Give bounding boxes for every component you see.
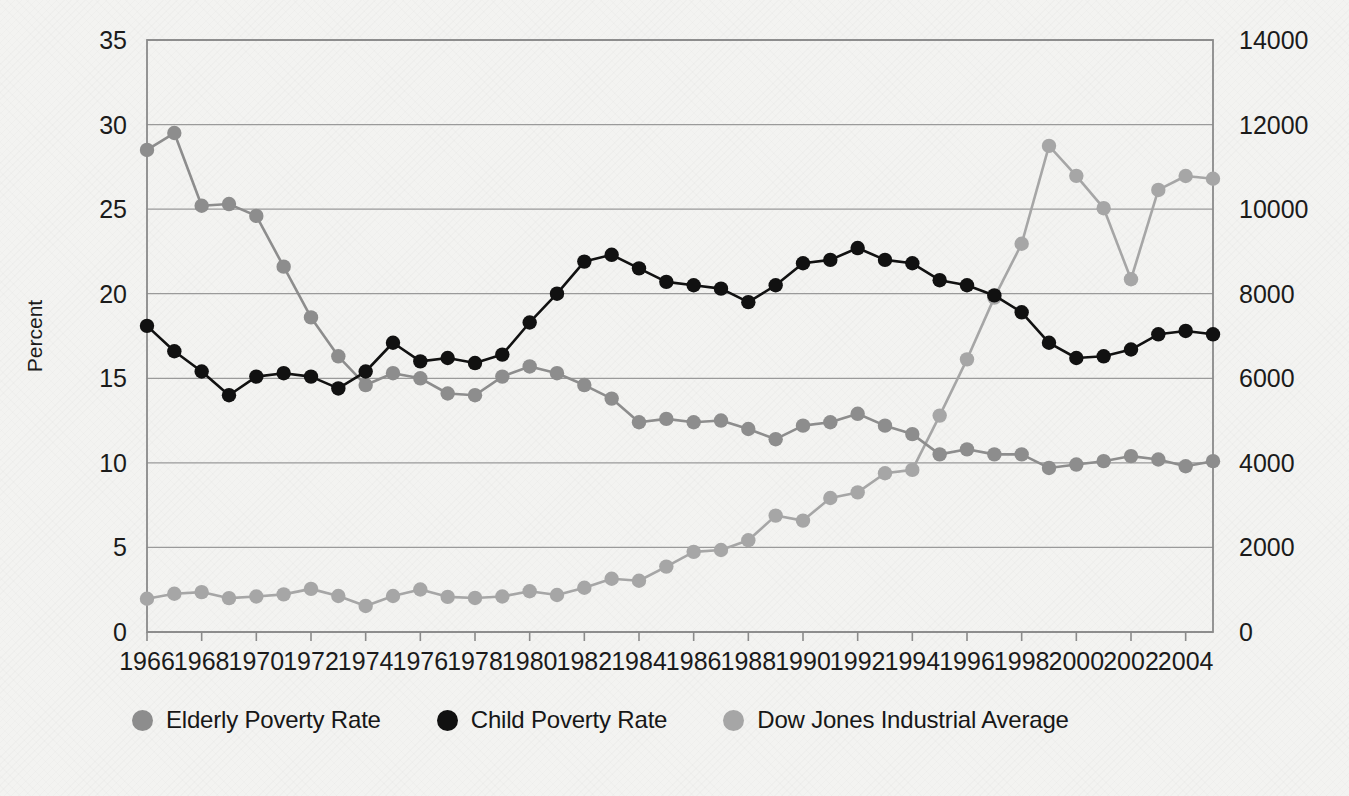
data-point (167, 126, 181, 140)
data-point (878, 466, 892, 480)
data-point (714, 413, 728, 427)
data-point (222, 591, 236, 605)
x-axis-tick-label: 1966 (119, 647, 175, 675)
x-axis-tick-label: 2002 (1103, 647, 1159, 675)
data-point (987, 288, 1001, 302)
legend-label: Elderly Poverty Rate (166, 706, 381, 734)
data-point (1206, 454, 1220, 468)
data-point (440, 386, 454, 400)
y-axis-left-tick-label: 30 (99, 111, 127, 139)
data-point (468, 356, 482, 370)
data-point (1206, 327, 1220, 341)
data-point (905, 427, 919, 441)
data-point (1206, 172, 1220, 186)
legend-entry: Elderly Poverty Rate (132, 706, 381, 734)
data-point (604, 248, 618, 262)
y-axis-left-tick-label: 0 (113, 618, 127, 646)
data-point (796, 513, 810, 527)
data-point (632, 415, 646, 429)
legend-marker-icon (132, 710, 153, 731)
data-point (796, 256, 810, 270)
y-axis-right-tick-label: 4000 (1239, 449, 1295, 477)
y-axis-right-tick-label: 2000 (1239, 533, 1295, 561)
y-axis-left-title: Percent (23, 300, 46, 373)
data-point (1014, 305, 1028, 319)
x-axis-tick-label: 1986 (666, 647, 722, 675)
y-axis-right-tick-label: 10000 (1239, 195, 1309, 223)
data-point (960, 442, 974, 456)
data-point (194, 199, 208, 213)
data-point (741, 295, 755, 309)
data-point (1042, 336, 1056, 350)
data-point (987, 447, 1001, 461)
data-point (358, 378, 372, 392)
legend-marker-icon (723, 710, 744, 731)
y-axis-left-tick-label: 20 (99, 280, 127, 308)
data-point (768, 508, 782, 522)
data-point (960, 352, 974, 366)
data-point (1042, 461, 1056, 475)
data-point (140, 592, 154, 606)
data-point (686, 415, 700, 429)
data-point (550, 366, 564, 380)
data-point (878, 253, 892, 267)
data-point (577, 581, 591, 595)
x-axis-tick-label: 1974 (338, 647, 394, 675)
y-axis-right-tick-label: 6000 (1239, 364, 1295, 392)
data-point (413, 582, 427, 596)
data-point (522, 584, 536, 598)
data-point (960, 278, 974, 292)
data-point (1151, 327, 1165, 341)
data-point (304, 310, 318, 324)
data-point (768, 432, 782, 446)
legend-label: Child Poverty Rate (471, 706, 668, 734)
data-point (358, 364, 372, 378)
data-point (468, 388, 482, 402)
data-point (167, 344, 181, 358)
x-axis-tick-label: 1970 (229, 647, 285, 675)
data-point (1042, 139, 1056, 153)
data-point (1151, 183, 1165, 197)
data-point (932, 273, 946, 287)
data-point (1124, 449, 1138, 463)
y-axis-left-tick-label: 25 (99, 195, 127, 223)
data-point (1096, 201, 1110, 215)
data-point (222, 197, 236, 211)
x-axis-tick-label: 1982 (557, 647, 613, 675)
data-point (194, 585, 208, 599)
data-point (1069, 457, 1083, 471)
data-point (850, 241, 864, 255)
series-elderly-poverty-rate (140, 126, 1220, 475)
data-point (905, 256, 919, 270)
legend-entry: Dow Jones Industrial Average (723, 706, 1068, 734)
data-point (222, 388, 236, 402)
data-point (140, 319, 154, 333)
data-point (1014, 237, 1028, 251)
x-axis-tick-label: 1972 (283, 647, 339, 675)
data-point (878, 418, 892, 432)
x-axis-tick-label: 1988 (721, 647, 777, 675)
y-axis-right-tick-label: 8000 (1239, 280, 1295, 308)
data-point (823, 415, 837, 429)
x-axis-tick-label: 1992 (830, 647, 886, 675)
x-axis-tick-label: 2000 (1049, 647, 1105, 675)
data-point (823, 491, 837, 505)
data-point (249, 209, 263, 223)
data-point (550, 588, 564, 602)
chart-figure: 1966196819701972197419761978198019821984… (0, 0, 1349, 796)
x-axis-tick-label: 1994 (885, 647, 941, 675)
data-point (604, 572, 618, 586)
x-axis-tick-label: 1980 (502, 647, 558, 675)
data-point (386, 366, 400, 380)
data-point (495, 369, 509, 383)
data-point (331, 589, 345, 603)
data-point (577, 378, 591, 392)
data-point (440, 351, 454, 365)
data-point (331, 381, 345, 395)
data-point (659, 412, 673, 426)
x-axis-tick-label: 1968 (174, 647, 230, 675)
x-axis-tick-label: 1990 (775, 647, 831, 675)
data-point (276, 259, 290, 273)
data-point (522, 359, 536, 373)
data-point (850, 407, 864, 421)
